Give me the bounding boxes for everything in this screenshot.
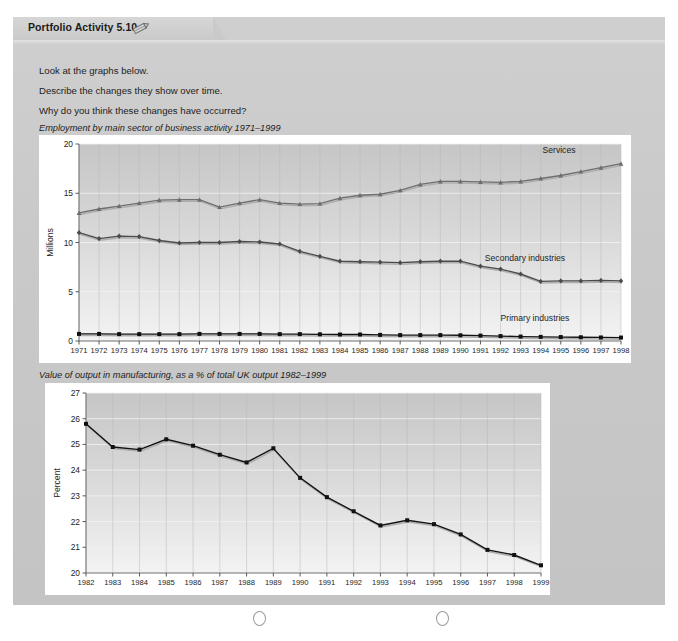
data-point bbox=[418, 333, 422, 337]
x-tick-label: 1996 bbox=[452, 578, 469, 587]
x-tick-label: 1991 bbox=[472, 346, 489, 355]
data-point bbox=[138, 448, 142, 452]
y-tick-label: 23 bbox=[71, 491, 81, 501]
chart-1-caption: Employment by main sector of business ac… bbox=[39, 123, 281, 133]
y-tick-label: 0 bbox=[68, 336, 73, 346]
x-tick-label: 1995 bbox=[552, 346, 569, 355]
x-tick-label: 1989 bbox=[265, 578, 282, 587]
y-tick-label: 5 bbox=[68, 287, 73, 297]
y-tick-label: 25 bbox=[71, 439, 81, 449]
data-point bbox=[378, 333, 382, 337]
data-point bbox=[164, 437, 168, 441]
data-point bbox=[579, 335, 583, 339]
data-point bbox=[271, 446, 275, 450]
data-point bbox=[258, 332, 262, 336]
x-tick-label: 1975 bbox=[151, 346, 168, 355]
x-tick-label: 1986 bbox=[185, 578, 202, 587]
instruction-line-2: Describe the changes they show over time… bbox=[39, 85, 222, 96]
x-tick-label: 1992 bbox=[492, 346, 509, 355]
x-tick-label: 1972 bbox=[91, 346, 108, 355]
x-tick-label: 1986 bbox=[372, 346, 389, 355]
x-tick-label: 1983 bbox=[311, 346, 328, 355]
y-tick-label: 24 bbox=[71, 465, 81, 475]
y-tick-label: 20 bbox=[64, 139, 74, 149]
x-tick-label: 1980 bbox=[251, 346, 268, 355]
data-point bbox=[432, 522, 436, 526]
binder-hole-right bbox=[436, 611, 449, 626]
data-point bbox=[97, 332, 101, 336]
x-tick-label: 1992 bbox=[345, 578, 362, 587]
data-point bbox=[458, 333, 462, 337]
data-point bbox=[278, 332, 282, 336]
y-tick-label: 21 bbox=[71, 542, 81, 552]
data-point bbox=[405, 518, 409, 522]
data-point bbox=[519, 335, 523, 339]
x-tick-label: 1979 bbox=[231, 346, 248, 355]
data-point bbox=[77, 332, 81, 336]
manufacturing-output-line-chart: 2021222324252627198219831984198519861987… bbox=[45, 383, 550, 595]
series-label-2: Primary industries bbox=[501, 313, 570, 323]
x-tick-label: 1976 bbox=[171, 346, 188, 355]
data-point bbox=[559, 335, 563, 339]
series-label-1: Secondary industries bbox=[485, 253, 565, 263]
y-tick-label: 26 bbox=[71, 414, 81, 424]
x-tick-label: 1983 bbox=[104, 578, 121, 587]
x-tick-label: 1993 bbox=[372, 578, 389, 587]
y-axis-title: Millions bbox=[45, 228, 55, 257]
data-point bbox=[191, 444, 195, 448]
data-point bbox=[117, 332, 121, 336]
data-point bbox=[539, 335, 543, 339]
data-point bbox=[478, 334, 482, 338]
x-tick-label: 1999 bbox=[533, 578, 550, 587]
x-tick-label: 1995 bbox=[425, 578, 442, 587]
data-point bbox=[512, 553, 516, 557]
data-point bbox=[398, 333, 402, 337]
data-point bbox=[438, 333, 442, 337]
pencil-icon bbox=[131, 20, 151, 36]
x-tick-label: 1990 bbox=[292, 578, 309, 587]
data-point bbox=[137, 332, 141, 336]
instruction-line-1: Look at the graphs below. bbox=[39, 65, 148, 76]
data-point bbox=[157, 332, 161, 336]
data-point bbox=[539, 563, 543, 567]
x-tick-label: 1987 bbox=[211, 578, 228, 587]
x-tick-label: 1994 bbox=[399, 578, 416, 587]
y-tick-label: 10 bbox=[64, 238, 74, 248]
x-tick-label: 1985 bbox=[158, 578, 175, 587]
data-point bbox=[218, 332, 222, 336]
x-tick-label: 1982 bbox=[291, 346, 308, 355]
x-tick-label: 1988 bbox=[412, 346, 429, 355]
x-tick-label: 1993 bbox=[512, 346, 529, 355]
manufacturing-output-svg: 2021222324252627198219831984198519861987… bbox=[45, 383, 550, 595]
y-tick-label: 20 bbox=[71, 568, 81, 578]
y-axis-title: Percent bbox=[52, 468, 62, 498]
x-tick-label: 1974 bbox=[131, 346, 148, 355]
x-tick-label: 1989 bbox=[432, 346, 449, 355]
y-tick-label: 15 bbox=[64, 188, 74, 198]
page-title: Portfolio Activity 5.10 bbox=[28, 21, 137, 33]
data-point bbox=[338, 332, 342, 336]
employment-line-chart: 0510152019711972197319741975197619771978… bbox=[39, 135, 631, 363]
x-tick-label: 1985 bbox=[352, 346, 369, 355]
x-tick-label: 1973 bbox=[111, 346, 128, 355]
x-tick-label: 1977 bbox=[191, 346, 208, 355]
y-tick-label: 22 bbox=[71, 517, 81, 527]
x-tick-label: 1997 bbox=[479, 578, 496, 587]
data-point bbox=[352, 509, 356, 513]
data-point bbox=[111, 445, 115, 449]
y-tick-label: 27 bbox=[71, 388, 81, 398]
data-point bbox=[298, 332, 302, 336]
employment-svg: 0510152019711972197319741975197619771978… bbox=[39, 135, 631, 363]
chart-2-caption: Value of output in manufacturing, as a %… bbox=[39, 370, 326, 380]
x-tick-label: 1998 bbox=[613, 346, 630, 355]
x-tick-label: 1984 bbox=[332, 346, 349, 355]
data-point bbox=[84, 422, 88, 426]
x-tick-label: 1978 bbox=[211, 346, 228, 355]
data-point bbox=[485, 548, 489, 552]
page-divider bbox=[13, 40, 665, 44]
data-point bbox=[238, 332, 242, 336]
data-point bbox=[325, 495, 329, 499]
data-point bbox=[197, 332, 201, 336]
data-point bbox=[218, 453, 222, 457]
x-tick-label: 1998 bbox=[506, 578, 523, 587]
